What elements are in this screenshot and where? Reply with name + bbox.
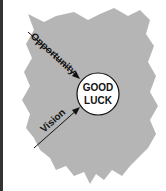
center-label-line1: GOOD — [83, 82, 114, 93]
diagram-canvas: Opportunity Vision GOOD LUCK — [0, 0, 166, 191]
good-luck-circle — [77, 73, 119, 115]
center-label-line2: LUCK — [84, 95, 113, 106]
diagram-svg: Opportunity Vision GOOD LUCK — [0, 0, 166, 191]
